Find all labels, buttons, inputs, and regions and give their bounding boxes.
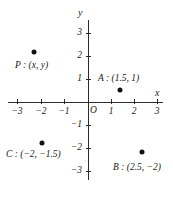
point-label-B: B : (2.5, −2) — [113, 163, 161, 173]
y-tick-mark-neg1 — [86, 125, 91, 126]
x-tick-mark-3 — [157, 99, 158, 104]
x-tick-label-3: 3 — [155, 107, 160, 117]
origin-label: O — [90, 106, 97, 116]
x-tick-label-1: 1 — [109, 107, 114, 117]
x-tick-label-neg1: −1 — [58, 107, 69, 117]
y-tick-mark-neg3 — [86, 171, 91, 172]
x-tick-mark-1 — [111, 99, 112, 104]
y-tick-mark-neg2 — [86, 148, 91, 149]
y-axis-line — [88, 20, 89, 180]
x-axis-line — [8, 102, 163, 103]
y-tick-label-neg2: −2 — [71, 143, 82, 153]
x-axis-label: x — [155, 88, 159, 98]
y-tick-label-neg1: −1 — [71, 120, 82, 130]
point-label-C: C : (−2, −1.5) — [6, 150, 61, 160]
x-tick-mark-neg1 — [64, 99, 65, 104]
point-marker-A — [118, 88, 123, 93]
point-marker-C — [40, 141, 45, 146]
x-tick-label-2: 2 — [132, 107, 137, 117]
x-tick-mark-neg3 — [17, 99, 18, 104]
x-tick-label-neg2: −2 — [35, 107, 46, 117]
y-tick-mark-2 — [86, 56, 91, 57]
y-tick-mark-3 — [86, 33, 91, 34]
y-tick-label-1: 1 — [77, 74, 82, 84]
point-label-P: P : (x, y) — [15, 61, 48, 71]
x-tick-mark-neg2 — [41, 99, 42, 104]
coordinate-plane-figure: −3 −2 −1 1 2 3 3 2 1 −1 −2 −3 x y O P : … — [0, 0, 173, 197]
point-marker-B — [140, 150, 145, 155]
y-axis-label: y — [78, 8, 82, 18]
y-tick-label-neg3: −3 — [71, 166, 82, 176]
y-tick-mark-1 — [86, 79, 91, 80]
point-label-A: A : (1.5, 1) — [98, 74, 139, 84]
y-tick-label-3: 3 — [77, 28, 82, 38]
point-marker-P — [32, 50, 37, 55]
y-tick-label-2: 2 — [77, 51, 82, 61]
x-tick-mark-2 — [134, 99, 135, 104]
x-tick-label-neg3: −3 — [11, 107, 22, 117]
